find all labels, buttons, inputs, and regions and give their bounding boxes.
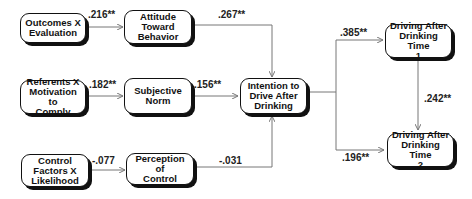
node-intention-to-drive-after-drinking: Intention to Drive After Drinking [240, 78, 307, 114]
node-driving-after-drinking-time-1: Driving After Drinking Time 1 [385, 24, 452, 58]
node-control-factors-x-likelihood: Control Factors X Likelihood [21, 154, 89, 187]
coef-referents-norm: .182** [89, 79, 116, 90]
coef-intention-time1: .385** [340, 27, 367, 38]
node-outcomes-x-evaluation: Outcomes X Evaluation [20, 13, 86, 43]
node-perception-of-control: Perception of Control [126, 153, 194, 185]
coef-perception-intention: -.031 [219, 155, 242, 166]
coef-attitude-intention: .267** [218, 9, 245, 20]
coef-time1-time2: .242** [424, 93, 451, 104]
coef-intention-time2: .196** [342, 152, 369, 163]
node-attitude-toward-behavior: Attitude Toward Behavior [124, 10, 192, 44]
node-subjective-norm: Subjective Norm [124, 78, 192, 114]
coef-control-perception: -.077 [92, 155, 115, 166]
coef-norm-intention: .156** [194, 79, 221, 90]
node-referents-x-motivation: Referents X Motivation to Comply [20, 80, 86, 114]
coef-outcomes-attitude: .216** [88, 9, 115, 20]
node-driving-after-drinking-time-2: Driving After Drinking Time 2 [387, 133, 454, 167]
